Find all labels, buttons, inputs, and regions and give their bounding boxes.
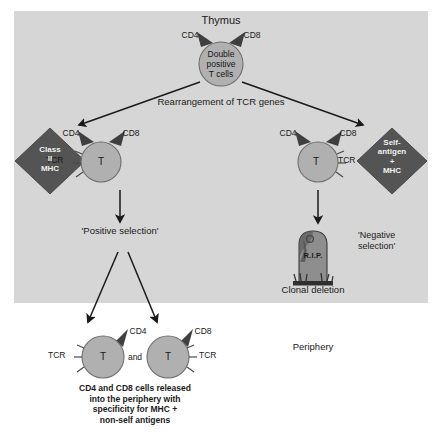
cd8-cell-letter: T (165, 351, 171, 363)
double-positive-cd8-label: CD8 (243, 31, 260, 41)
conjunction-and-label: and (128, 353, 142, 363)
double-positive-line-3: T cells (191, 69, 251, 79)
cd8-marker-icon (181, 329, 193, 347)
class-ii-mhc-line-2: II (20, 154, 80, 163)
negative-selection-label: 'Negative selection' (358, 230, 395, 253)
self-antigen-line-1: Self- (362, 138, 422, 147)
cd4-cell-letter: T (100, 351, 106, 363)
negative-selection-line-2: selection' (358, 241, 395, 252)
periphery-tcr-right-label: TCR (199, 351, 216, 361)
right-branch-cd8-label: CD8 (339, 129, 356, 139)
caption-line-4: non-self antigens (35, 415, 235, 426)
clonal-deletion-label: Clonal deletion (282, 285, 345, 296)
caption-line-2: into the periphery with (35, 394, 235, 405)
self-antigen-line-4: MHC (362, 166, 422, 175)
right-branch-tcr-label: TCR (338, 156, 355, 166)
self-antigen-mhc-label: Self- antigen + MHC (362, 138, 422, 176)
class-ii-mhc-label: Class II MHC (20, 145, 80, 173)
double-positive-line-1: Double (191, 49, 251, 59)
figure-canvas: Thymus CD4 CD8 Double positive T cells R… (0, 0, 442, 440)
tcr-spikes-cd8-cell (187, 345, 197, 372)
caption-line-3: specificity for MHC + (35, 404, 235, 415)
periphery-cd8-label: CD8 (194, 327, 211, 337)
tombstone-rip-text: R.I.P. (304, 252, 323, 261)
rearrangement-label: Rearrangement of TCR genes (157, 97, 284, 108)
tcr-spikes-cd4-cell (74, 345, 84, 372)
right-branch-cd4-label: CD4 (279, 129, 296, 139)
periphery-tcr-left-label: TCR (48, 351, 65, 361)
caption-line-1: CD4 and CD8 cells released (35, 383, 235, 394)
left-branch-cd4-label: CD4 (62, 129, 79, 139)
right-t-cell-letter: T (313, 156, 319, 168)
self-antigen-line-2: antigen (362, 147, 422, 156)
periphery-cd4-label: CD4 (129, 327, 146, 337)
figure-caption: CD4 and CD8 cells released into the peri… (35, 383, 235, 426)
double-positive-caption: Double positive T cells (191, 49, 251, 79)
left-branch-cd8-label: CD8 (122, 129, 139, 139)
double-positive-line-2: positive (191, 59, 251, 69)
thymus-title: Thymus (201, 14, 240, 27)
self-antigen-line-3: + (362, 157, 422, 166)
class-ii-mhc-line-3: MHC (20, 164, 80, 173)
class-ii-mhc-line-1: Class (20, 145, 80, 154)
cd8-periphery-cell-group (147, 329, 197, 378)
positive-selection-label: 'Positive selection' (81, 226, 158, 237)
left-t-cell-letter: T (98, 156, 104, 168)
negative-selection-line-1: 'Negative (358, 230, 395, 241)
periphery-label: Periphery (293, 342, 334, 353)
cd4-marker-icon (116, 329, 128, 347)
double-positive-cd4-label: CD4 (181, 31, 198, 41)
